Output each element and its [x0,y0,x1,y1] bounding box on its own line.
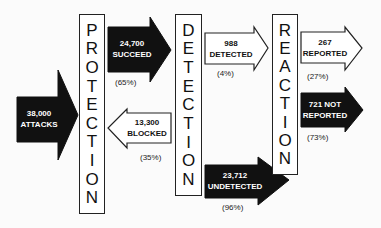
not-reported-label: 721 NOT REPORTED [300,99,350,121]
letter: I [90,152,95,169]
undetected-label: 23,712 UNDETECTED [205,170,265,192]
letter: N [182,171,194,188]
attacks-label: 38,000 ATTACKS [17,108,61,130]
succeed-text: SUCCEED [108,49,156,60]
letter: C [279,77,291,94]
protection-box: P R O T E C T I O N [79,14,105,214]
letter: O [85,59,98,76]
letter: R [279,22,291,39]
blocked-value: 13,300 [122,117,172,128]
attack-flow-diagram: P R O T E C T I O N D E T E C T I O N R … [0,0,381,228]
letter: O [278,132,291,149]
detected-percent: (4%) [217,69,234,78]
letter: T [183,59,193,76]
letter: C [182,96,194,113]
letter: R [86,40,98,57]
succeed-label: 24,700 SUCCEED [108,38,156,60]
succeed-value: 24,700 [108,38,156,49]
undetected-percent: (96%) [222,203,243,212]
letter: I [186,134,191,151]
letter: O [182,152,195,169]
letter: E [86,96,97,113]
blocked-percent: (35%) [140,153,161,162]
letter: N [86,189,98,206]
reaction-box: R E A C T I O N [272,14,298,175]
letter: D [182,22,194,39]
detected-text: DETECTED [205,49,257,60]
letter: E [279,40,290,57]
undetected-value: 23,712 [205,170,265,181]
reported-text: REPORTED [300,48,350,59]
detection-box: D E T E C T I O N [175,14,202,196]
not-reported-text: REPORTED [300,110,350,121]
letter: O [85,171,98,188]
letter: T [183,115,193,132]
letter: A [279,58,290,75]
letter: E [183,40,194,57]
succeed-percent: (65%) [115,78,136,87]
undetected-text: UNDETECTED [205,181,265,192]
reported-percent: (27%) [307,72,328,81]
letter: E [183,78,194,95]
attacks-value: 38,000 [17,108,61,119]
letter: T [87,133,97,150]
letter: N [279,150,291,167]
letter: C [86,115,98,132]
letter: I [283,114,288,131]
not-reported-value: 721 NOT [300,99,350,110]
letter: T [280,95,290,112]
not-reported-percent: (73%) [307,133,328,142]
detected-value: 988 [205,38,257,49]
blocked-text: BLOCKED [122,128,172,139]
letter: P [86,22,97,39]
letter: T [87,78,97,95]
reported-value: 267 [300,37,350,48]
attacks-text: ATTACKS [17,119,61,130]
reported-label: 267 REPORTED [300,37,350,59]
blocked-label: 13,300 BLOCKED [122,117,172,139]
detected-label: 988 DETECTED [205,38,257,60]
